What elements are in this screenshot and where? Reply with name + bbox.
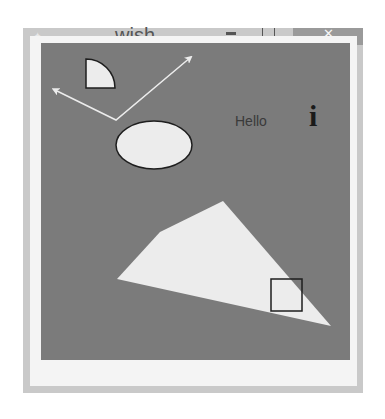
hello-text: Hello — [235, 113, 267, 129]
ellipse — [116, 121, 192, 169]
info-bitmap-icon: i — [309, 99, 317, 133]
client-area: Hello i — [30, 36, 357, 386]
minimize-icon — [226, 32, 236, 35]
double-arrow-line — [57, 57, 191, 120]
polygon — [117, 201, 331, 326]
quarter-pie — [86, 59, 115, 88]
canvas[interactable]: Hello i — [41, 43, 350, 360]
wish-window: ✦ wish ✕ — [23, 28, 363, 393]
canvas-drawing — [41, 43, 350, 360]
